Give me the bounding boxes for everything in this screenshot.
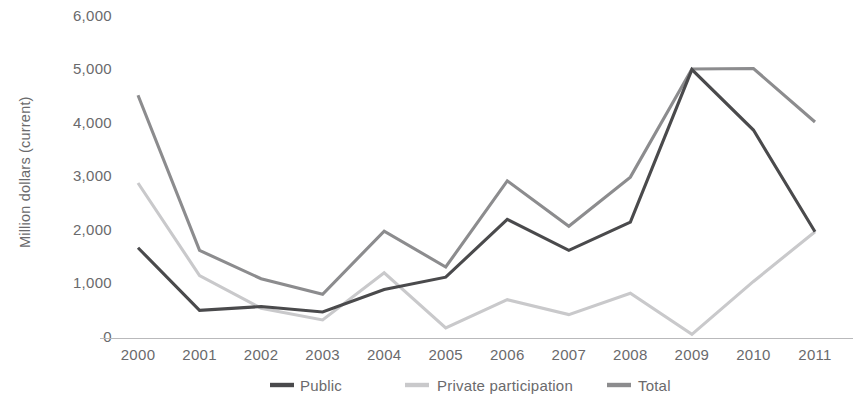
- x-axis-tick-label: 2003: [305, 346, 340, 363]
- y-axis-tick-label: 0: [103, 328, 112, 345]
- y-axis-tick-label: 3,000: [73, 167, 112, 184]
- x-axis-tick-label: 2010: [736, 346, 771, 363]
- x-axis-tick-labels: 2000200120022003200420052006200720082009…: [121, 346, 832, 363]
- y-axis-tick-label: 5,000: [73, 60, 112, 77]
- x-axis-tick-label: 2002: [244, 346, 279, 363]
- y-axis-tick-label: 1,000: [73, 274, 112, 291]
- x-axis-tick-label: 2004: [367, 346, 402, 363]
- series-line-public: [138, 70, 815, 312]
- x-axis-tick-label: 2005: [428, 346, 463, 363]
- y-axis-title: Million dollars (current): [17, 96, 33, 248]
- line-chart-figure: Million dollars (current) 6,0005,0004,00…: [0, 0, 853, 407]
- series-line-private-participation: [138, 183, 815, 334]
- y-axis-tick-labels: 6,0005,0004,0003,0002,0001,0000: [73, 7, 112, 345]
- x-axis-tick-label: 2008: [613, 346, 648, 363]
- legend-label-private-participation: Private participation: [437, 377, 573, 394]
- x-axis-tick-label: 2000: [121, 346, 156, 363]
- y-axis-title-group: Million dollars (current): [17, 96, 33, 248]
- legend-label-public: Public: [300, 377, 342, 394]
- chart-legend: PublicPrivate participationTotal: [270, 377, 671, 394]
- x-axis-tick-label: 2011: [798, 346, 831, 363]
- legend-label-total: Total: [638, 377, 671, 394]
- x-axis-tick-label: 2007: [552, 346, 587, 363]
- x-axis-tick-label: 2001: [182, 346, 217, 363]
- y-axis-tick-label: 2,000: [73, 221, 112, 238]
- y-axis-tick-label: 6,000: [73, 7, 112, 24]
- x-axis-tick-label: 2009: [675, 346, 710, 363]
- data-series-group: [138, 69, 815, 335]
- y-axis-tick-label: 4,000: [73, 114, 112, 131]
- x-axis-tick-label: 2006: [490, 346, 525, 363]
- chart-canvas: Million dollars (current) 6,0005,0004,00…: [0, 0, 853, 407]
- series-line-total: [138, 69, 815, 295]
